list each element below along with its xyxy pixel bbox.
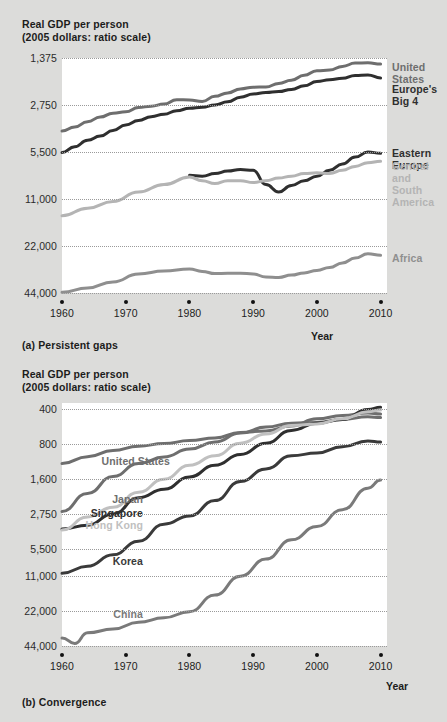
x-axis-tick-dot bbox=[315, 653, 319, 657]
y-axis-tick-label: 44,000 bbox=[24, 640, 57, 652]
y-axis-tick-label: 22,000 bbox=[24, 605, 57, 617]
y-axis-tick-label: 1,375 bbox=[30, 52, 57, 64]
gridline bbox=[62, 576, 387, 577]
series-label-europe-s-big-4: Europe's Big 4 bbox=[392, 83, 447, 107]
x-axis-tick-label: 2010 bbox=[369, 660, 393, 672]
series-label-united-states: United States bbox=[102, 455, 170, 467]
series-line-eastern-europe bbox=[190, 152, 381, 192]
y-axis-tick-label: 2,750 bbox=[30, 508, 57, 520]
x-axis-tick-label: 1990 bbox=[241, 660, 265, 672]
y-axis-tick-label: 400 bbox=[39, 403, 57, 415]
x-axis-tick-dot bbox=[251, 653, 255, 657]
x-axis-tick-dot bbox=[379, 300, 383, 304]
x-axis-tick-dot bbox=[60, 653, 64, 657]
series-label-china: China bbox=[113, 608, 143, 620]
gridline bbox=[62, 479, 387, 480]
series-label-singapore: Singapore bbox=[91, 507, 143, 519]
x-axis-tick-dot bbox=[187, 653, 191, 657]
x-axis-tick-dot bbox=[251, 300, 255, 304]
y-axis-tick-label: 44,000 bbox=[24, 287, 57, 299]
series-line-china bbox=[62, 480, 381, 643]
series-line-africa bbox=[62, 254, 381, 292]
gridline bbox=[62, 549, 387, 550]
series-line-united-states bbox=[62, 63, 381, 131]
panel-a-caption: (a) Persistent gaps bbox=[22, 339, 118, 351]
gridline bbox=[62, 409, 387, 410]
y-axis-tick-label: 1,600 bbox=[30, 473, 57, 485]
gridline bbox=[62, 246, 387, 247]
x-axis-tick-label: 2000 bbox=[305, 307, 329, 319]
panel-b-xaxis-word: Year bbox=[386, 680, 408, 692]
y-axis-tick-label: 22,000 bbox=[24, 240, 57, 252]
y-axis-tick-label: 800 bbox=[39, 438, 57, 450]
gridline bbox=[62, 444, 387, 445]
y-axis-tick-label: 5,500 bbox=[30, 146, 57, 158]
series-label-central-and-south-america: Central and South America bbox=[392, 160, 447, 208]
x-axis-tick-label: 2010 bbox=[369, 307, 393, 319]
gridline bbox=[62, 611, 387, 612]
chart-panel-a: Real GDP per person (2005 dollars: ratio… bbox=[0, 0, 447, 355]
page-background: Real GDP per person (2005 dollars: ratio… bbox=[0, 0, 447, 722]
series-label-japan: Japan bbox=[112, 493, 143, 505]
y-axis-tick-label: 2,750 bbox=[30, 99, 57, 111]
y-axis-tick-label: 11,000 bbox=[25, 570, 57, 582]
y-axis-tick-label: 11,000 bbox=[25, 193, 57, 205]
series-label-hong-kong: Hong Kong bbox=[86, 519, 143, 531]
gridline bbox=[62, 152, 387, 153]
x-axis-tick-dot bbox=[379, 653, 383, 657]
x-axis-tick-label: 2000 bbox=[305, 660, 329, 672]
x-axis-tick-dot bbox=[124, 300, 128, 304]
gridline bbox=[62, 105, 387, 106]
x-axis-tick-dot bbox=[124, 653, 128, 657]
x-axis-tick-dot bbox=[60, 300, 64, 304]
x-axis-tick-label: 1970 bbox=[114, 660, 138, 672]
series-label-africa: Africa bbox=[392, 252, 422, 264]
panel-b-caption: (b) Convergence bbox=[22, 696, 106, 708]
chart-panel-b: Real GDP per person (2005 dollars: ratio… bbox=[0, 355, 447, 722]
x-axis-tick-dot bbox=[187, 300, 191, 304]
x-axis-tick-label: 1980 bbox=[178, 307, 202, 319]
gridline bbox=[62, 58, 387, 59]
x-axis-tick-dot bbox=[315, 300, 319, 304]
series-label-korea: Korea bbox=[113, 555, 143, 567]
x-axis-tick-label: 1980 bbox=[178, 660, 202, 672]
y-axis-tick-label: 5,500 bbox=[30, 543, 57, 555]
gridline bbox=[62, 199, 387, 200]
x-axis-tick-label: 1970 bbox=[114, 307, 138, 319]
x-axis-tick-label: 1990 bbox=[241, 307, 265, 319]
panel-a-xaxis-word: Year bbox=[311, 330, 333, 342]
gridline bbox=[62, 646, 387, 647]
series-label-united-states: United States bbox=[392, 61, 447, 85]
x-axis-tick-label: 1960 bbox=[50, 660, 74, 672]
x-axis-tick-label: 1960 bbox=[50, 307, 74, 319]
gridline bbox=[62, 293, 387, 294]
